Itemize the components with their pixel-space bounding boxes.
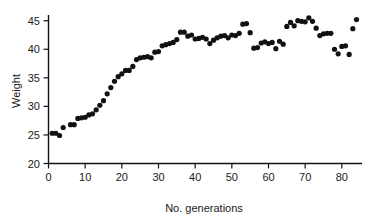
data-point <box>343 43 348 48</box>
x-tick-label: 40 <box>189 171 201 183</box>
x-tick-label: 30 <box>152 171 164 183</box>
data-point <box>310 19 315 24</box>
x-tick-marks <box>49 164 342 169</box>
y-tick-label: 25 <box>28 129 40 141</box>
data-point <box>61 125 66 130</box>
data-point <box>314 26 319 31</box>
data-point <box>57 133 62 138</box>
x-tick-label: 50 <box>226 171 238 183</box>
data-point <box>72 122 77 127</box>
data-point <box>174 37 179 42</box>
y-tick-label: 35 <box>28 72 40 84</box>
data-point <box>273 46 278 51</box>
data-point <box>281 42 286 47</box>
data-point <box>130 64 135 69</box>
data-point <box>101 98 106 103</box>
data-point <box>182 30 187 35</box>
data-point <box>90 111 95 116</box>
data-point-series <box>50 15 360 138</box>
y-tick-label: 40 <box>28 43 40 55</box>
y-tick-labels: 202530354045 <box>28 15 40 170</box>
data-point <box>347 52 352 57</box>
data-point <box>204 36 209 41</box>
data-point <box>336 51 341 56</box>
x-tick-labels: 01020304050607080 <box>45 171 348 183</box>
data-point <box>292 23 297 28</box>
data-point <box>350 26 355 31</box>
data-point <box>189 32 194 37</box>
y-axis-title-text: Weight <box>10 74 22 108</box>
data-point <box>332 47 337 52</box>
data-point <box>255 45 260 50</box>
data-point <box>237 31 242 36</box>
plot-canvas: Weight No. generations 202530354045 0102… <box>0 0 374 218</box>
y-axis: 202530354045 <box>28 15 49 170</box>
x-tick-label: 60 <box>262 171 274 183</box>
data-point <box>149 55 154 60</box>
y-tick-label: 30 <box>28 100 40 112</box>
scatter-plot-figure: Weight No. generations 202530354045 0102… <box>0 0 374 218</box>
data-point <box>328 31 333 36</box>
data-point <box>127 68 132 73</box>
y-tick-label: 20 <box>28 158 40 170</box>
data-point <box>244 21 249 26</box>
x-axis-title: No. generations <box>165 202 243 214</box>
x-axis: 01020304050607080 <box>45 164 362 184</box>
x-tick-label: 20 <box>116 171 128 183</box>
data-point <box>94 107 99 112</box>
data-point <box>97 103 102 108</box>
data-point <box>105 91 110 96</box>
x-tick-label: 70 <box>299 171 311 183</box>
data-point <box>112 79 117 84</box>
data-point <box>108 85 113 90</box>
data-point <box>284 24 289 29</box>
x-axis-title-text: No. generations <box>165 202 243 214</box>
x-tick-label: 10 <box>79 171 91 183</box>
data-point <box>354 17 359 22</box>
x-tick-label: 80 <box>336 171 348 183</box>
data-point <box>248 30 253 35</box>
y-tick-marks <box>44 21 49 164</box>
x-tick-label: 0 <box>45 171 51 183</box>
data-point <box>156 49 161 54</box>
data-point <box>270 40 275 45</box>
data-point <box>303 19 308 24</box>
y-tick-label: 45 <box>28 15 40 27</box>
y-axis-title: Weight <box>10 74 22 108</box>
